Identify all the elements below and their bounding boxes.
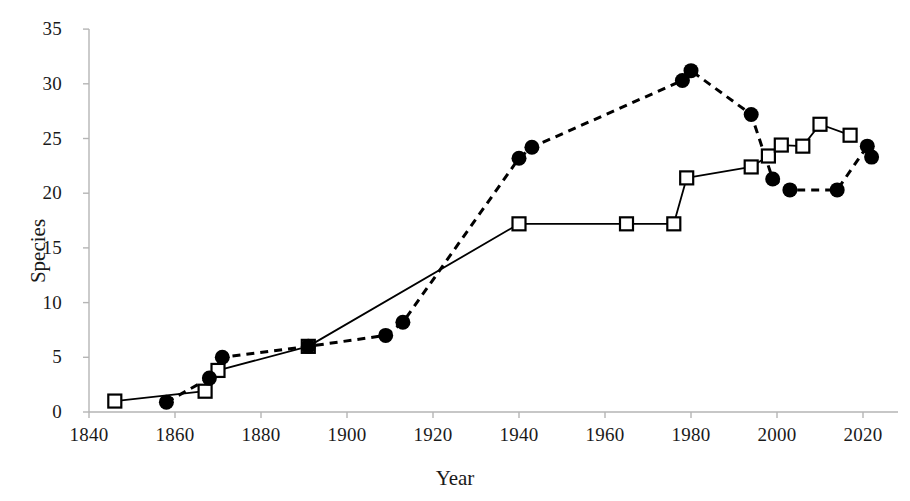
y-tick-label: 20	[22, 182, 62, 204]
y-tick-label: 5	[22, 346, 62, 368]
marker-open-square	[667, 217, 680, 230]
marker-filled-circle	[524, 140, 539, 155]
marker-filled-circle	[215, 350, 230, 365]
x-tick-label: 1940	[500, 424, 539, 446]
marker-open-square	[513, 217, 526, 230]
y-tick-label: 35	[22, 18, 62, 40]
data-series	[108, 63, 879, 409]
marker-filled-circle	[830, 182, 845, 197]
chart-container: 05101520253035 1840186018801900192019401…	[0, 0, 910, 501]
marker-open-square	[814, 118, 827, 131]
marker-open-square	[108, 395, 121, 408]
marker-filled-circle	[512, 151, 527, 166]
x-tick-label: 1840	[70, 424, 109, 446]
x-tick-label: 2020	[844, 424, 883, 446]
marker-filled-circle	[301, 339, 316, 354]
marker-open-square	[762, 150, 775, 163]
marker-filled-circle	[395, 315, 410, 330]
marker-open-square	[199, 385, 212, 398]
y-tick-label: 30	[22, 73, 62, 95]
marker-open-square	[796, 140, 809, 153]
marker-open-square	[745, 160, 758, 173]
y-tick-label: 10	[22, 292, 62, 314]
marker-open-square	[775, 139, 788, 152]
y-tick-label: 0	[22, 401, 62, 423]
marker-filled-circle	[864, 150, 879, 165]
marker-open-square	[620, 217, 633, 230]
marker-filled-circle	[378, 328, 393, 343]
marker-open-square	[680, 171, 693, 184]
marker-filled-circle	[159, 395, 174, 410]
x-tick-label: 1980	[672, 424, 711, 446]
marker-filled-circle	[684, 63, 699, 78]
axis-lines	[89, 29, 898, 412]
x-tick-label: 1960	[586, 424, 625, 446]
y-axis-title: Species	[26, 218, 51, 282]
marker-filled-circle	[202, 371, 217, 386]
y-tick-label: 25	[22, 128, 62, 150]
series-line-1	[166, 71, 871, 402]
marker-filled-circle	[765, 171, 780, 186]
marker-filled-circle	[744, 107, 759, 122]
x-tick-label: 1920	[414, 424, 453, 446]
x-tick-label: 1860	[156, 424, 195, 446]
x-tick-label: 1900	[328, 424, 367, 446]
marker-open-square	[844, 129, 857, 142]
x-tick-label: 1880	[242, 424, 281, 446]
x-tick-label: 2000	[758, 424, 797, 446]
marker-filled-circle	[782, 182, 797, 197]
x-axis-title: Year	[0, 466, 910, 491]
